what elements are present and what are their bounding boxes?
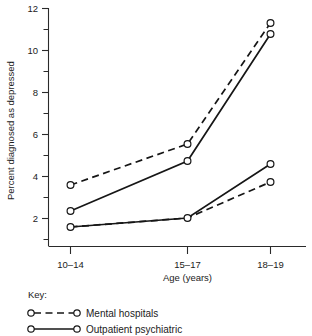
series-mental-hospitals-lower <box>71 182 271 227</box>
y-axis-title: Percent diagnosed as depressed <box>5 61 16 200</box>
y-tick-label: 10 <box>27 45 38 56</box>
depression-by-age-line-chart: 12 10 8 6 4 2 Percent diagnosed as depre… <box>0 0 312 336</box>
legend-marker-start <box>28 310 34 316</box>
legend-label: Outpatient psychiatric <box>86 324 182 335</box>
legend-title: Key: <box>28 289 47 300</box>
legend-marker-end <box>74 310 80 316</box>
data-point <box>267 31 274 38</box>
series-line <box>71 23 271 185</box>
x-tick-label: 10–14 <box>57 259 83 270</box>
data-point <box>184 215 191 222</box>
data-point <box>184 141 191 148</box>
y-tick-label: 8 <box>33 87 38 98</box>
series-line <box>71 182 271 227</box>
data-point <box>67 182 74 189</box>
y-tick-label: 6 <box>33 129 38 140</box>
y-axis-tick-labels: 12 10 8 6 4 2 <box>27 3 38 224</box>
legend-marker-start <box>28 326 34 332</box>
data-point <box>267 161 274 168</box>
y-tick-label: 4 <box>33 171 38 182</box>
axes <box>49 8 307 247</box>
x-tick-label: 18–19 <box>257 259 283 270</box>
y-tick-label: 2 <box>33 213 38 224</box>
legend-label: Mental hospitals <box>86 308 158 319</box>
series-mental-hospitals <box>71 23 271 185</box>
data-point <box>184 158 191 165</box>
x-tick-label: 15–17 <box>174 259 200 270</box>
x-axis-ticks <box>71 247 271 255</box>
data-point <box>67 208 74 215</box>
x-axis-tick-labels: 10–14 15–17 18–19 <box>57 259 283 270</box>
legend-item-mental-hospitals[interactable]: Mental hospitals <box>28 308 158 319</box>
x-axis-title: Age (years) <box>163 272 212 283</box>
data-point <box>67 224 74 231</box>
legend-item-outpatient-psychiatric-services[interactable]: Outpatient psychiatric <box>28 324 182 335</box>
chart-figure: 12 10 8 6 4 2 Percent diagnosed as depre… <box>0 0 312 336</box>
legend: Key: Mental hospitals Outpatient psychia… <box>28 289 182 335</box>
data-point <box>267 179 274 186</box>
data-point <box>267 20 274 27</box>
y-tick-label: 12 <box>27 3 38 14</box>
legend-marker-end <box>74 326 80 332</box>
